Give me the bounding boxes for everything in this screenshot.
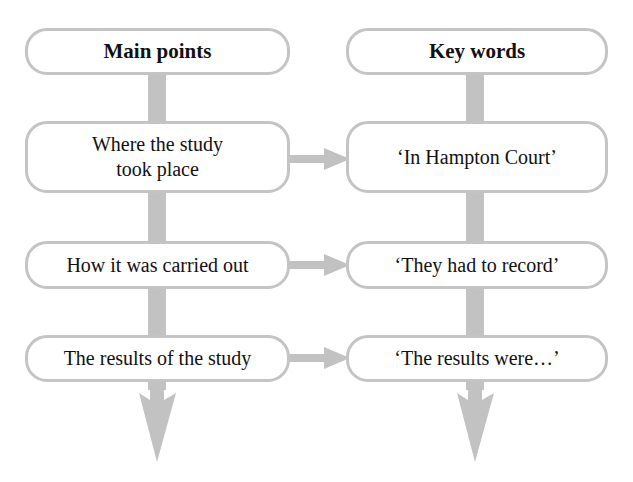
- row1-right-arrow-icon: [288, 148, 350, 170]
- right-down-arrow-icon: [457, 390, 494, 462]
- main-point-results: The results of the study: [25, 335, 290, 382]
- key-word-had-to-record: ‘They had to record’: [346, 241, 608, 289]
- main-point-where-line2: took place: [116, 157, 199, 182]
- row2-right-arrow-icon: [288, 254, 350, 276]
- main-point-how: How it was carried out: [25, 241, 290, 289]
- key-word-results-were-label: ‘The results were…’: [394, 346, 560, 371]
- key-words-header: Key words: [346, 28, 608, 75]
- main-points-header-label: Main points: [104, 39, 212, 64]
- key-word-results-were: ‘The results were…’: [346, 335, 608, 382]
- key-word-hampton-court: ‘In Hampton Court’: [346, 121, 608, 193]
- row3-right-arrow-icon: [288, 347, 350, 369]
- key-words-header-label: Key words: [429, 39, 525, 64]
- key-word-had-to-record-label: ‘They had to record’: [395, 253, 560, 278]
- main-point-where-line1: Where the study: [92, 132, 223, 157]
- main-point-how-label: How it was carried out: [66, 253, 248, 278]
- key-word-hampton-court-label: ‘In Hampton Court’: [397, 145, 557, 170]
- main-point-results-label: The results of the study: [64, 346, 252, 371]
- main-points-header: Main points: [25, 28, 290, 75]
- main-point-where: Where the study took place: [25, 121, 290, 193]
- left-down-arrow-icon: [139, 390, 176, 462]
